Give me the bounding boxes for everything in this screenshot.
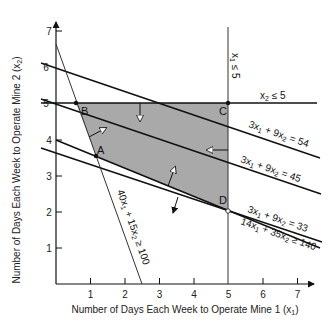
- svg-text:2: 2: [122, 289, 128, 300]
- svg-text:1: 1: [88, 289, 94, 300]
- point-b-label: B: [81, 105, 88, 117]
- label-54: 3x1 + 9x2 = 54: [247, 118, 311, 150]
- label-x1-le-5: x1 ≤ 5: [229, 53, 241, 79]
- y-axis-title: Number of Days Each Week to Operate Mine…: [11, 56, 23, 283]
- svg-text:3: 3: [157, 289, 163, 300]
- x-tick-labels: 1 2 3 4 5 6 7: [88, 289, 301, 300]
- x-axis-title: Number of Days Each Week to Operate Mine…: [71, 304, 298, 316]
- svg-text:4: 4: [46, 135, 52, 146]
- lp-diagram: 1 2 3 4 5 6 7 1 2 3 4 5 6 7 Number of Da…: [0, 0, 333, 326]
- label-100: 40x1 + 15x2 ≥ 100: [114, 188, 152, 267]
- svg-text:4: 4: [191, 289, 197, 300]
- svg-text:6: 6: [260, 289, 266, 300]
- svg-text:2: 2: [46, 207, 52, 218]
- y-ticks: [56, 31, 62, 248]
- svg-text:1: 1: [46, 243, 52, 254]
- point-c-label: C: [219, 105, 227, 117]
- point-b-marker: [74, 101, 78, 105]
- point-d-marker: [226, 209, 230, 213]
- y-tick-labels: 1 2 3 4 5 6 7: [43, 26, 52, 254]
- label-x2-le-5: x2 ≤ 5: [260, 90, 286, 102]
- svg-text:7: 7: [46, 26, 52, 37]
- point-a-label: A: [97, 144, 105, 156]
- svg-text:7: 7: [295, 289, 301, 300]
- svg-text:5: 5: [226, 289, 232, 300]
- arrow-33: [173, 197, 178, 213]
- svg-text:3: 3: [46, 171, 52, 182]
- x-ticks: [91, 278, 298, 284]
- point-d-label: D: [219, 194, 227, 206]
